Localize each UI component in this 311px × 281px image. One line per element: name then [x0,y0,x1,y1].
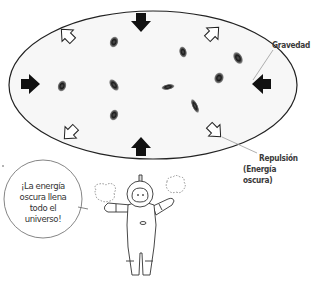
speech-line-1: ¡La energía [8,181,78,192]
repulsion-sublabel: (Energía oscura) [243,164,299,186]
gravity-label: Gravedad [272,40,310,51]
speech-line-4: universo! [8,214,78,225]
dashed-cloud-left [95,184,116,202]
universe-diagram [0,0,311,281]
astronaut-icon [104,175,174,275]
speech-line-3: todo el [8,203,78,214]
dashed-cloud-right [166,176,185,193]
speech-line-2: oscura llena [8,192,78,203]
speech-bubble-text: ¡La energía oscura llena todo el univers… [8,181,78,225]
repulsion-label: Repulsión [259,153,298,164]
